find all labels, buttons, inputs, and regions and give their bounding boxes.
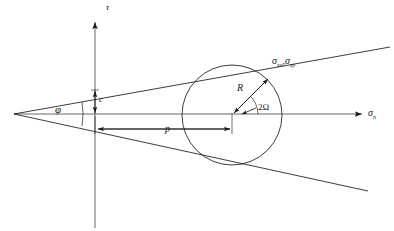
sigma-xy-subscript: xy xyxy=(290,61,296,68)
cohesion-dimension xyxy=(91,90,99,113)
mohr-diagram-canvas xyxy=(0,0,394,231)
tau-axis-label: τ xyxy=(106,3,109,12)
mean-stress-dimension xyxy=(95,113,232,134)
double-angle-label: 2Ω xyxy=(258,103,269,112)
double-angle-arc xyxy=(250,96,258,114)
lower-envelope-line xyxy=(14,114,368,191)
double-angle-indicator xyxy=(242,96,258,114)
mean-stress-label: p xyxy=(165,124,170,134)
cohesion-label: c xyxy=(99,95,103,104)
sigma-n-subscript: n xyxy=(373,113,376,120)
radius-label: R xyxy=(237,83,243,93)
upper-envelope-line xyxy=(14,47,390,114)
double-angle-arrow xyxy=(242,108,256,114)
friction-angle-label: φ xyxy=(55,104,61,115)
sigma-n-axis-label: σn xyxy=(368,108,376,120)
stress-point-label: σxx,σxy xyxy=(272,56,295,68)
omega-symbol: Ω xyxy=(263,102,270,112)
mohr-circle-figure: τ σn φ c p R 2Ω σxx,σxy xyxy=(0,0,394,231)
failure-envelope-group xyxy=(14,47,390,191)
